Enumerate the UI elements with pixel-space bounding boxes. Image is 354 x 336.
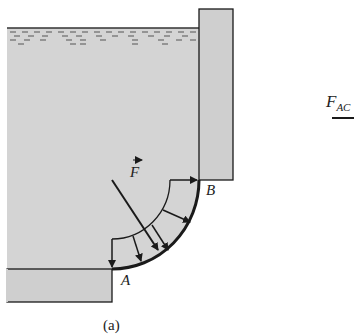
right-wall (199, 9, 233, 180)
figure-caption: (a) (103, 317, 120, 334)
point-b-label: B (206, 182, 215, 199)
bottom-block (7, 269, 112, 302)
diagram-canvas (0, 0, 354, 336)
water-region (7, 28, 199, 269)
force-ac-subscript: AC (336, 101, 350, 113)
force-ac-label: FAC (326, 92, 350, 113)
point-a-label: A (121, 272, 130, 289)
force-ac-symbol: F (326, 92, 336, 111)
force-label: F (130, 164, 139, 181)
